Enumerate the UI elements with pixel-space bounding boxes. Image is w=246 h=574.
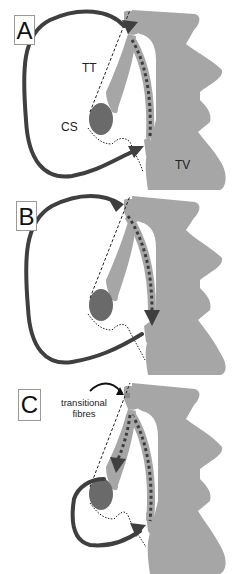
label-line-2: fibres (56, 408, 112, 419)
coronary-sinus-shape (89, 289, 113, 321)
label-tv: TV (175, 158, 190, 172)
activation-loop-arrow (26, 196, 142, 363)
label-line-1: transitional (56, 397, 112, 408)
label-cs: CS (61, 120, 78, 134)
tricuspid-valve-shape (132, 383, 226, 574)
septal-leaflet-shape (106, 222, 136, 301)
lower-lobe-shape (144, 136, 152, 160)
panel-letter-a: A (14, 15, 35, 45)
panel-b: B (0, 190, 246, 375)
panel-a-diagram (0, 0, 246, 190)
transitional-fibres-marker (125, 393, 130, 398)
panel-a: A TT CS TV (0, 0, 246, 190)
annotation-arrow (90, 384, 120, 392)
label-transitional-fibres: transitional fibres (56, 397, 112, 419)
panel-letter-c: C (18, 389, 41, 421)
panel-letter-b: B (16, 201, 37, 231)
label-tt: TT (82, 61, 97, 75)
coronary-sinus-shape (89, 103, 113, 135)
panel-c: C transitional fibres (0, 375, 246, 574)
